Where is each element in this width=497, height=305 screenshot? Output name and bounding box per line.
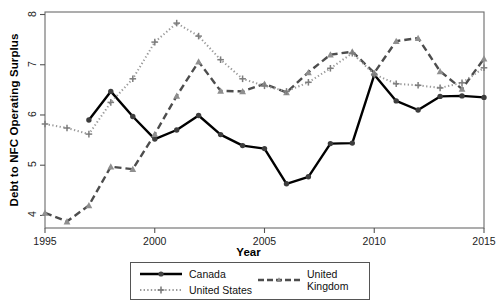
legend-item-canada: Canada [139, 268, 226, 280]
y-tick-label: 4 [26, 206, 38, 222]
x-axis-label: Year [0, 246, 497, 258]
chart-figure: Debt to NFC Operating Surplus Year Canad… [0, 0, 497, 305]
legend-swatch-united-states [139, 284, 183, 296]
data-point [86, 202, 93, 208]
data-point [195, 58, 202, 64]
series-united-states [42, 20, 488, 138]
x-tick-label: 2010 [360, 235, 388, 247]
legend-item-united-kingdom: United Kingdom [257, 268, 369, 292]
legend-swatch-canada [139, 268, 183, 280]
data-point [218, 132, 223, 137]
legend-item-united-states: United States [139, 284, 252, 296]
data-point [196, 113, 201, 118]
data-point [437, 94, 442, 99]
data-point [174, 127, 179, 132]
data-point [350, 140, 355, 145]
data-point [305, 69, 312, 75]
legend-label-united-kingdom: United Kingdom [307, 268, 369, 292]
data-point [130, 114, 135, 119]
legend-label-united-states: United States [189, 284, 252, 296]
data-point [86, 117, 91, 122]
series-line [45, 38, 484, 221]
legend: Canada United Kingdom United States [130, 262, 370, 300]
data-point [459, 93, 464, 98]
plot-canvas [0, 0, 497, 248]
data-point [328, 141, 333, 146]
y-tick-label: 8 [26, 6, 38, 22]
data-point [240, 143, 245, 148]
data-point [107, 163, 114, 169]
data-point [151, 131, 158, 137]
x-tick-label: 2005 [251, 235, 279, 247]
legend-label-canada: Canada [189, 268, 226, 280]
data-point [262, 146, 267, 151]
y-tick-label: 7 [26, 56, 38, 72]
y-tick-label: 5 [26, 156, 38, 172]
x-tick-label: 2015 [470, 235, 497, 247]
x-tick-label: 1995 [31, 235, 59, 247]
x-tick-label: 2000 [141, 235, 169, 247]
data-point [394, 98, 399, 103]
data-point [284, 181, 289, 186]
data-point [108, 89, 113, 94]
data-point [173, 93, 180, 99]
data-point [415, 107, 420, 112]
data-point [481, 95, 486, 100]
data-point [481, 55, 488, 61]
series-united-kingdom [42, 35, 488, 225]
y-tick-label: 6 [26, 106, 38, 122]
plot-frame [45, 12, 484, 228]
data-point [306, 174, 311, 179]
legend-swatch-united-kingdom [257, 274, 301, 286]
